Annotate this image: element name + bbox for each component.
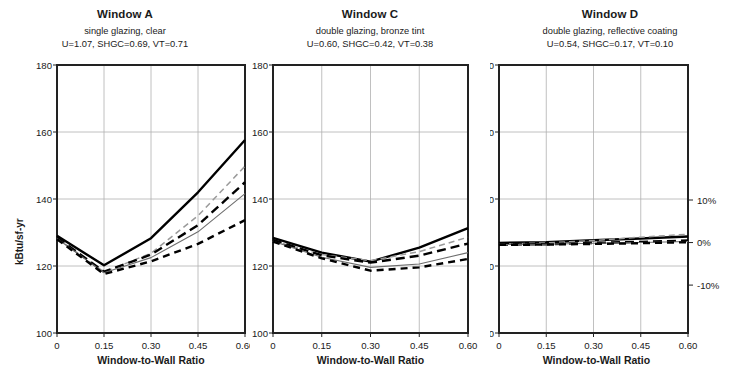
- y-tick-label: 180: [252, 60, 268, 71]
- x-axis-label-window-a: Window-to-Wall Ratio: [57, 354, 245, 366]
- x-tick-label: 0: [270, 340, 275, 351]
- chart-panel-window-a: Window A single glazing, clear U=1.07, S…: [0, 0, 250, 391]
- y-tick-label: 140: [252, 194, 268, 205]
- y-tick-label: 160: [490, 127, 494, 138]
- y-tick-label: 120: [36, 261, 52, 272]
- y-tick-label: 160: [36, 127, 52, 138]
- x-tick-label: 0.60: [236, 340, 250, 351]
- x-tick-label: 0.45: [410, 340, 429, 351]
- figure-window-energy-charts: Window A single glazing, clear U=1.07, S…: [0, 0, 730, 391]
- y-tick-label: 180: [490, 60, 494, 71]
- y-tick-label: 180: [36, 60, 52, 71]
- x-tick-label: 0.30: [584, 340, 603, 351]
- chart-panel-window-d: Window D double glazing, reflective coat…: [490, 0, 730, 391]
- percent-tick-label: -10%: [697, 280, 720, 291]
- x-tick-label: 0: [54, 340, 59, 351]
- x-axis-label-window-c: Window-to-Wall Ratio: [273, 354, 468, 366]
- y-tick-label: 160: [252, 127, 268, 138]
- x-tick-label: 0.15: [312, 340, 331, 351]
- y-tick-label: 100: [252, 328, 268, 339]
- y-tick-label: 100: [36, 328, 52, 339]
- y-tick-label: 140: [490, 194, 494, 205]
- y-tick-label: 120: [490, 261, 494, 272]
- x-tick-label: 0.60: [679, 340, 698, 351]
- x-tick-label: 0.30: [361, 340, 380, 351]
- y-tick-label: 100: [490, 328, 494, 339]
- percent-tick-label: 10%: [697, 195, 717, 206]
- percent-tick-label: 0%: [697, 237, 711, 248]
- plot-area-window-a: 18016014012010000.150.300.450.60: [0, 0, 250, 391]
- x-tick-label: 0.15: [95, 340, 114, 351]
- figure-footnote: [0, 379, 730, 391]
- x-tick-label: 0.45: [631, 340, 650, 351]
- y-tick-label: 140: [36, 194, 52, 205]
- plot-area-window-c: 18016014012010000.150.300.450.60: [250, 0, 490, 391]
- x-tick-label: 0: [496, 340, 501, 351]
- x-tick-label: 0.60: [459, 340, 478, 351]
- x-tick-label: 0.15: [537, 340, 556, 351]
- x-tick-label: 0.30: [142, 340, 161, 351]
- x-axis-label-window-d: Window-to-Wall Ratio: [499, 354, 694, 366]
- chart-panel-window-c: Window C double glazing, bronze tint U=0…: [250, 0, 490, 391]
- plot-area-window-d: 18016014012010000.150.300.450.6010%0%-10…: [490, 0, 730, 391]
- x-tick-label: 0.45: [189, 340, 208, 351]
- y-tick-label: 120: [252, 261, 268, 272]
- y-axis-label-window-a: kBtu/sf-yr: [14, 218, 25, 265]
